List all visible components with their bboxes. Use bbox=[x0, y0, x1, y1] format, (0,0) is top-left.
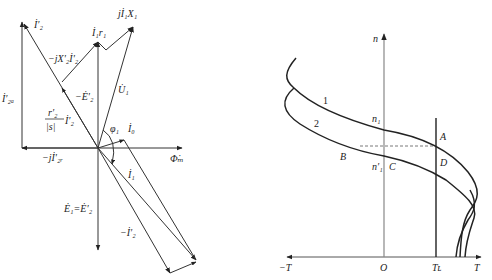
label-curve-1: 1 bbox=[323, 95, 328, 106]
label-t-axis: T bbox=[474, 262, 481, 273]
label-i1-r1: İ₁r₁ bbox=[91, 27, 106, 38]
label-u1: U̇₁ bbox=[118, 84, 129, 95]
diagram-canvas: İ′₂ İ₁r₁ jİ₁X₁ −jX′₂İ′₂ İ′₂ₐ −Ė′₂ U̇₁ r′… bbox=[0, 0, 492, 280]
label-curve-2: 2 bbox=[314, 118, 319, 129]
label-neg-j-x2-i2: −jX′₂İ′₂ bbox=[48, 53, 79, 64]
label-r2-den: |s| bbox=[46, 121, 55, 132]
parallelogram-side-1 bbox=[124, 140, 196, 260]
label-neg-t: −T bbox=[279, 262, 293, 273]
label-neg-i2: −İ′₂ bbox=[120, 227, 136, 238]
speed-torque-labels: n 1 2 n₁ A B n′₁ C D −T O Tʟ T bbox=[279, 33, 481, 273]
label-i1: İ₁ bbox=[127, 169, 135, 180]
i1-r1-vector bbox=[98, 42, 106, 50]
label-t-load: Tʟ bbox=[432, 262, 442, 273]
label-origin: O bbox=[380, 262, 387, 273]
label-point-c: C bbox=[389, 161, 396, 172]
label-r2s-i2: İ′₂ bbox=[64, 115, 75, 126]
i1-vector bbox=[98, 148, 196, 260]
label-j-i1-x1: jİ₁X₁ bbox=[116, 8, 137, 19]
label-phi1: φ₁ bbox=[110, 123, 119, 134]
i0-vector bbox=[98, 140, 124, 148]
label-point-b: B bbox=[340, 151, 346, 162]
label-i2a: İ′₂ₐ bbox=[1, 93, 14, 104]
neg-i2-vector bbox=[98, 148, 170, 273]
label-i2-prime: İ′₂ bbox=[33, 19, 44, 30]
parallelogram-side-2 bbox=[170, 262, 196, 273]
speed-torque-diagram bbox=[285, 34, 481, 257]
curve-1 bbox=[287, 58, 478, 257]
phasor-labels: İ′₂ İ₁r₁ jİ₁X₁ −jX′₂İ′₂ İ′₂ₐ −Ė′₂ U̇₁ r′… bbox=[1, 8, 184, 238]
j-i1-x1-vector bbox=[106, 27, 133, 50]
label-point-a: A bbox=[439, 131, 447, 142]
label-neg-e2: −Ė′₂ bbox=[75, 91, 94, 102]
label-point-d: D bbox=[439, 157, 448, 168]
label-n1: n₁ bbox=[372, 113, 380, 124]
label-phi-m: Φ̇ₘ bbox=[170, 153, 184, 164]
label-neg-j-i2r: −jİ′₂ᵣ bbox=[42, 152, 64, 163]
label-e1-eq-e2: Ė₁=Ė′₂ bbox=[63, 203, 93, 214]
label-n1-prime: n′₁ bbox=[372, 161, 383, 172]
label-r2-num: r′₂ bbox=[48, 107, 58, 118]
label-n-axis: n bbox=[373, 33, 378, 44]
label-i0: İ₀ bbox=[127, 123, 135, 134]
